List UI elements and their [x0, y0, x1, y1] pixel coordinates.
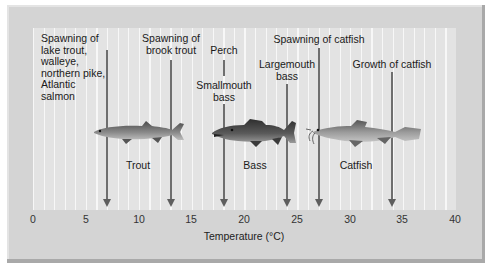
- label-largemouth-bass: Largemouth bass: [259, 59, 315, 82]
- arrowhead-27c: [315, 199, 323, 207]
- tick-20: 20: [238, 213, 250, 225]
- perch-connector: [223, 60, 225, 76]
- fish-label-catfish: Catfish: [340, 160, 373, 172]
- tick-30: 30: [344, 213, 356, 225]
- label-line: salmon: [41, 91, 105, 103]
- tick-25: 25: [291, 213, 303, 225]
- label-line: Atlantic: [41, 79, 105, 91]
- arrowhead-18c: [220, 199, 228, 207]
- arrowhead-7c: [103, 199, 111, 207]
- catfish-fish-icon: [305, 117, 423, 153]
- tick-15: 15: [185, 213, 197, 225]
- label-line: bass: [259, 71, 315, 83]
- fish-label-bass: Bass: [243, 160, 266, 172]
- tick-0: 0: [30, 213, 36, 225]
- label-line: brook trout: [142, 45, 200, 57]
- tick-35: 35: [396, 213, 408, 225]
- bass-fish-icon: [210, 115, 300, 149]
- tick-40: 40: [449, 213, 461, 225]
- label-line: walleye,: [41, 56, 105, 68]
- label-line: Largemouth: [259, 59, 315, 71]
- fish-label-trout: Trout: [126, 160, 150, 172]
- label-line: Spawning of: [41, 33, 105, 45]
- label-line: Spawning of: [142, 33, 200, 45]
- label-line: bass: [196, 92, 251, 104]
- trout-fish-icon: [92, 118, 188, 148]
- tick-10: 10: [133, 213, 145, 225]
- label-line: Smallmouth: [196, 80, 251, 92]
- label-spawning-lake-trout: Spawning of lake trout, walleye, norther…: [41, 33, 105, 102]
- label-spawning-brook-trout: Spawning of brook trout: [142, 33, 200, 56]
- label-smallmouth-bass: Smallmouth bass: [196, 80, 251, 103]
- label-growth-catfish: Growth of catfish: [353, 59, 432, 71]
- label-perch: Perch: [210, 45, 237, 57]
- arrowhead-24c: [283, 199, 291, 207]
- arrowhead-13c: [167, 199, 175, 207]
- x-axis-label: Temperature (°C): [204, 230, 285, 242]
- label-spawning-catfish: Spawning of catfish: [273, 34, 364, 46]
- tick-5: 5: [83, 213, 89, 225]
- arrowhead-34c: [388, 199, 396, 207]
